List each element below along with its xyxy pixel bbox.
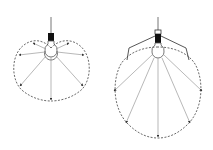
socket-cap bbox=[155, 30, 161, 34]
light-rays bbox=[114, 55, 202, 137]
bare-bulb-figure bbox=[14, 17, 90, 101]
bulb-icon bbox=[152, 43, 164, 58]
shaded-bulb-figure bbox=[114, 17, 202, 138]
bulb-icon bbox=[45, 41, 57, 57]
light-distribution-diagram bbox=[0, 0, 213, 150]
socket bbox=[155, 34, 161, 43]
socket bbox=[48, 33, 54, 41]
